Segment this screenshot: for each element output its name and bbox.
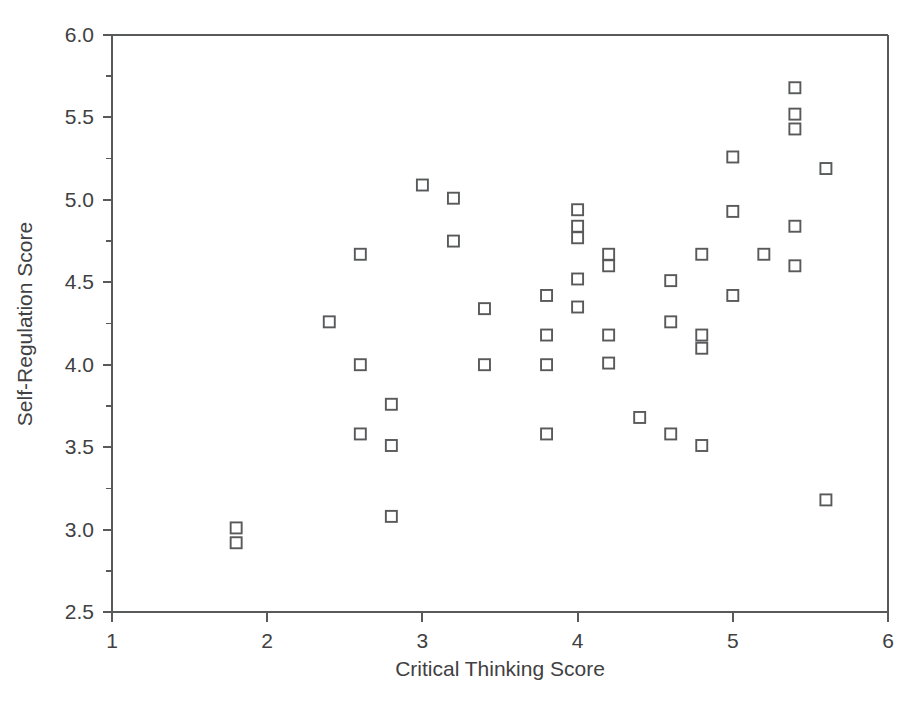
x-tick-label: 1 [106,629,118,652]
x-axis-title: Critical Thinking Score [395,657,605,680]
data-point-marker [789,123,800,134]
x-tick-label: 3 [417,629,429,652]
data-point-marker [696,249,707,260]
x-tick-label: 5 [727,629,739,652]
y-tick-label: 5.5 [65,105,94,128]
data-point-marker [541,330,552,341]
data-point-marker [603,358,614,369]
data-point-marker [603,330,614,341]
data-point-marker [386,399,397,410]
data-point-marker [355,428,366,439]
data-point-marker [448,236,459,247]
data-point-marker [355,249,366,260]
data-point-marker [696,330,707,341]
y-tick-label: 3.5 [65,435,94,458]
data-points [231,82,832,548]
data-point-marker [665,275,676,286]
data-point-marker [820,163,831,174]
data-point-marker [355,359,366,370]
data-point-marker [479,303,490,314]
data-point-marker [541,359,552,370]
data-point-marker [572,302,583,313]
x-tick-label: 6 [882,629,894,652]
y-tick-label: 5.0 [65,188,94,211]
data-point-marker [603,249,614,260]
x-tick-labels: 123456 [106,629,894,652]
y-axis-title: Self-Regulation Score [13,222,36,426]
data-point-marker [386,511,397,522]
data-point-marker [231,537,242,548]
data-point-marker [789,221,800,232]
y-tick-label: 4.5 [65,270,94,293]
data-point-marker [417,180,428,191]
y-tick-label: 3.0 [65,518,94,541]
x-tick-label: 2 [261,629,273,652]
data-point-marker [479,359,490,370]
data-point-marker [231,522,242,533]
data-point-marker [572,221,583,232]
data-point-marker [789,82,800,93]
x-tick-label: 4 [572,629,584,652]
data-point-marker [572,232,583,243]
data-point-marker [324,316,335,327]
data-point-marker [541,428,552,439]
data-point-marker [820,494,831,505]
y-tick-label: 2.5 [65,600,94,623]
data-point-marker [572,273,583,284]
data-point-marker [572,204,583,215]
data-point-marker [696,440,707,451]
y-tick-labels: 2.53.03.54.04.55.05.56.0 [65,23,94,623]
plot-area: 2.53.03.54.04.55.05.56.0 123456 Critical… [0,0,915,702]
data-point-marker [789,109,800,120]
data-point-marker [665,316,676,327]
data-point-marker [696,343,707,354]
data-point-marker [634,412,645,423]
y-tick-label: 6.0 [65,23,94,46]
data-point-marker [603,260,614,271]
scatter-chart: 2.53.03.54.04.55.05.56.0 123456 Critical… [0,0,915,702]
data-point-marker [727,206,738,217]
y-tick-label: 4.0 [65,353,94,376]
data-point-marker [789,260,800,271]
data-point-marker [541,290,552,301]
data-point-marker [758,249,769,260]
data-point-marker [727,290,738,301]
data-point-marker [448,193,459,204]
tick-marks [103,35,888,622]
data-point-marker [727,151,738,162]
axes [112,35,888,612]
data-point-marker [665,428,676,439]
data-point-marker [386,440,397,451]
